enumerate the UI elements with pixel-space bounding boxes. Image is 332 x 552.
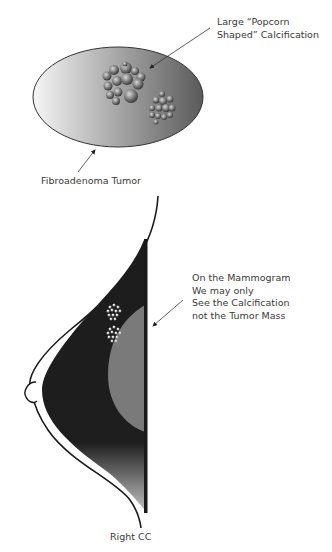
mammogram-note-line3: See the Calcification [192,297,290,310]
view-label: Right CC [110,531,151,544]
mammogram-note-line2: We may only [192,285,290,298]
view-label-text: Right CC [110,531,151,542]
calcification-label: Large “Popcorn Shaped” Calcification [217,16,319,41]
calcification-label-line1: Large “Popcorn [217,16,319,29]
mammogram-note: On the Mammogram We may only See the Cal… [192,272,290,322]
mammogram-note-line4: not the Tumor Mass [192,310,290,323]
tumor-label: Fibroadenoma Tumor [41,175,141,188]
tumor-pointer-arrow [78,150,95,172]
fibroadenoma-tumor-illustration [33,47,203,147]
mammogram-note-arrow [153,300,183,326]
calcification-pointer-arrow [150,28,210,68]
calcification-label-line2: Shaped” Calcification [217,29,319,42]
mammogram-note-line1: On the Mammogram [192,272,290,285]
chest-wall-line [144,239,148,513]
tumor-label-text: Fibroadenoma Tumor [41,175,141,186]
